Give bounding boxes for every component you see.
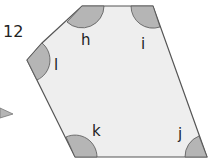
angle-label-h: h xyxy=(81,31,91,49)
partial-shape-fragment xyxy=(0,108,13,118)
angle-label-l: l xyxy=(54,56,58,74)
angle-label-i: i xyxy=(141,35,145,53)
angle-label-j: j xyxy=(177,125,182,143)
angle-label-k: k xyxy=(92,122,101,140)
diagram-canvas: 12 h i j k l xyxy=(0,0,215,166)
question-number: 12 xyxy=(3,22,23,41)
